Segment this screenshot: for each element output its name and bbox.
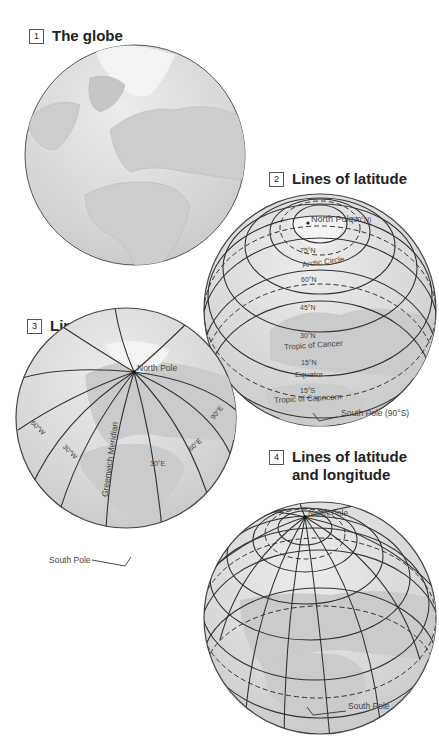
lat-75n: 75°N: [300, 247, 316, 254]
lon-30e: 30°E: [150, 460, 166, 467]
lat-60n: 60°N: [301, 276, 317, 283]
lat-south-pole-label: South Pole (90°S): [341, 408, 409, 418]
lat-north-pole-label: North Pole: [311, 214, 354, 224]
globe-diagrams: North Pole (90°N) 75°N Arctic Circle 60°…: [0, 0, 439, 738]
globe-3-longitude: North Pole 60°W 30°W Greenwich Meridian …: [16, 308, 236, 566]
lat-15n: 15°N: [301, 359, 317, 366]
grid-north-pole-label: North Pole: [308, 508, 348, 518]
lat-30n: 30°N: [300, 332, 316, 339]
lon-south-pole-label: South Pole: [49, 555, 91, 565]
lat-north-pole-deg: (90°N): [351, 216, 371, 224]
globe-1: [25, 45, 245, 269]
lat-45n: 45°N: [300, 304, 316, 311]
globe-2-latitude: North Pole (90°N) 75°N Arctic Circle 60°…: [202, 194, 438, 469]
grid-south-pole-label: South Pole: [348, 701, 390, 711]
lon-north-pole-label: North Pole: [137, 363, 177, 373]
equator-label: Equator: [295, 370, 323, 379]
globe-4-grid: North Pole South Pole: [200, 495, 439, 738]
europe-land: [110, 107, 245, 180]
